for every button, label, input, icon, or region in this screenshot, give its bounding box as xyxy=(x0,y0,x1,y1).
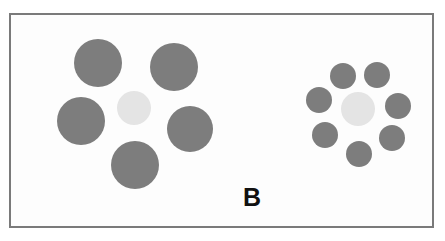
inducer-left-bottom xyxy=(111,141,159,189)
inducer-right-upper-left xyxy=(306,87,332,113)
inducer-left-top-left xyxy=(74,39,122,87)
target-circle-right xyxy=(341,92,375,126)
panel-label: B xyxy=(243,185,261,210)
target-circle-left xyxy=(117,91,151,125)
inducer-left-mid-left xyxy=(57,97,105,145)
inducer-right-top-right xyxy=(364,62,390,88)
figure-canvas: B xyxy=(0,0,445,241)
figure-frame: B xyxy=(9,13,434,228)
inducer-left-mid-right xyxy=(167,106,213,152)
inducer-right-top-left xyxy=(330,63,356,89)
inducer-right-upper-right xyxy=(385,93,411,119)
inducer-left-top-right xyxy=(150,43,198,91)
inducer-right-lower-left xyxy=(312,122,338,148)
inducer-right-lower-right xyxy=(379,125,405,151)
inducer-right-bottom xyxy=(346,141,372,167)
